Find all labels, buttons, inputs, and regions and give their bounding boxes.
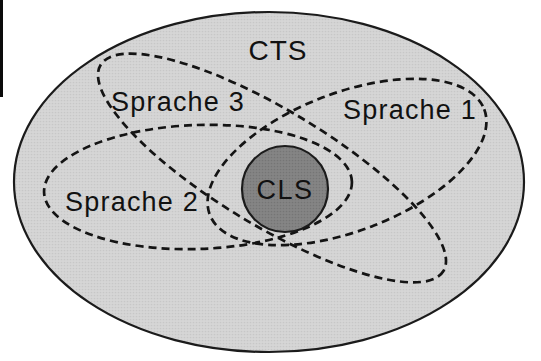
- figure-canvas: CTS Sprache 3 Sprache 1 Sprache 2 CLS: [0, 0, 541, 361]
- sprache2-label: Sprache 2: [65, 187, 199, 217]
- euler-diagram-svg: CTS Sprache 3 Sprache 1 Sprache 2 CLS: [0, 0, 541, 361]
- cls-label: CLS: [256, 175, 313, 205]
- scan-artifact-line: [0, 0, 3, 97]
- cts-label: CTS: [249, 35, 308, 66]
- sprache1-label: Sprache 1: [343, 95, 477, 125]
- sprache3-label: Sprache 3: [111, 87, 245, 117]
